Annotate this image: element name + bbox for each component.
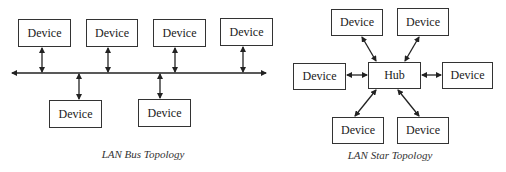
bus-device-6: Device (138, 99, 191, 127)
bus-device-5: Device (49, 100, 102, 128)
node-label: Device (230, 25, 264, 40)
star-device-bottom-right: Device (397, 117, 449, 144)
diagram-canvas: Device Device Device Device Device Devic… (0, 0, 506, 172)
node-label: Device (163, 26, 197, 41)
bus-device-4: Device (220, 18, 273, 46)
bus-device-2: Device (86, 19, 138, 47)
star-device-top-right: Device (397, 8, 449, 36)
star-topology-caption: LAN Star Topology (348, 149, 433, 161)
bus-topology-caption: LAN Bus Topology (102, 148, 185, 160)
star-device-left: Device (293, 63, 346, 90)
node-label: Device (341, 123, 375, 138)
bus-device-3: Device (153, 19, 206, 47)
node-label: Device (148, 106, 182, 121)
star-device-top-left: Device (331, 9, 383, 36)
node-label: Device (28, 26, 62, 41)
node-label: Device (59, 107, 93, 122)
node-label: Device (303, 69, 337, 84)
node-label: Device (340, 15, 374, 30)
star-link-bottom-right (398, 90, 419, 116)
star-device-bottom-left: Device (332, 117, 384, 144)
node-label: Device (406, 15, 440, 30)
node-label: Device (406, 123, 440, 138)
hub-label: Hub (384, 68, 405, 83)
star-device-right: Device (442, 62, 493, 89)
node-label: Device (95, 26, 129, 41)
star-link-top-right (405, 37, 419, 61)
star-link-bottom-left (355, 90, 376, 116)
star-hub: Hub (368, 62, 421, 89)
node-label: Device (451, 68, 485, 83)
star-link-top-left (362, 37, 376, 61)
bus-device-1: Device (18, 19, 71, 47)
